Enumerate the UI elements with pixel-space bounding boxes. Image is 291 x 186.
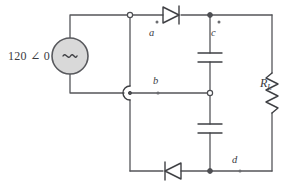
node-b-marker [156,91,159,94]
wire-source-to-b-line [70,74,124,93]
node-d-junction [208,169,213,174]
node-label-a: a [149,28,154,39]
source-label: 120 ∠ 0 [8,50,50,62]
node-b-dot [128,91,131,94]
node-c-junction [208,13,213,18]
resistor-label: RL [260,77,272,92]
diode-top-triangle [163,7,179,23]
node-d-dot [239,170,242,173]
diode-bottom-triangle [165,163,181,179]
capacitor-bottom [198,124,222,133]
node-a-dot [156,21,159,24]
ac-voltage-source [52,38,88,74]
schematic-svg [0,0,291,186]
node-label-c: c [211,28,216,39]
circuit-diagram: 120 ∠ 0 a b c d RL [0,0,291,186]
node-c-dot [218,21,221,24]
wire-source-to-top-left [70,15,130,38]
diode-bottom [165,162,181,180]
diode-top [163,6,179,24]
resistor-label-sub: L [267,83,271,92]
capacitor-top [198,53,222,62]
node-label-b: b [153,76,158,87]
node-center-junction [207,90,212,95]
node-a-marker [127,12,132,17]
node-label-d: d [232,155,237,166]
